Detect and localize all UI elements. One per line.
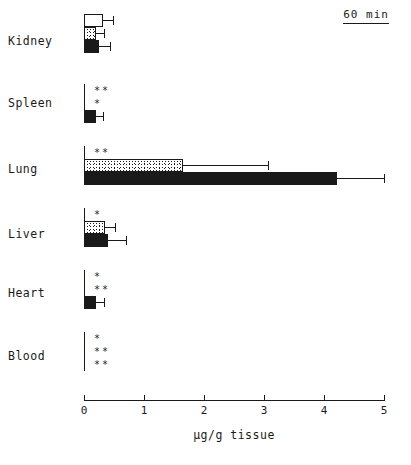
x-tick-label-0: 0 bbox=[74, 404, 94, 417]
bar-row: * bbox=[84, 97, 404, 110]
category-label-spleen: Spleen bbox=[8, 97, 76, 110]
bar-row bbox=[84, 159, 404, 172]
significance-marker: ** bbox=[94, 358, 110, 371]
bar-blood-open bbox=[84, 332, 85, 345]
x-tick-label-1: 1 bbox=[134, 404, 154, 417]
bar-heart-stippled bbox=[84, 283, 85, 296]
x-tick-0 bbox=[84, 395, 85, 401]
x-tick-4 bbox=[324, 395, 325, 401]
bar-heart-open bbox=[84, 270, 85, 283]
bar-kidney-stippled bbox=[84, 27, 96, 40]
error-bar-cap bbox=[103, 112, 104, 121]
bar-spleen-open bbox=[84, 84, 85, 97]
bar-kidney-solid bbox=[84, 40, 99, 53]
bar-liver-open bbox=[84, 208, 85, 221]
bar-chart-figure: 60 min KidneySpleen***Lung**Liver*Heart*… bbox=[0, 0, 411, 465]
bar-row bbox=[84, 234, 404, 247]
significance-marker: ** bbox=[94, 146, 110, 159]
error-bar-cap bbox=[104, 29, 105, 38]
bar-row bbox=[84, 172, 404, 185]
significance-marker: ** bbox=[94, 84, 110, 97]
bar-lung-open bbox=[84, 146, 85, 159]
x-tick-label-2: 2 bbox=[194, 404, 214, 417]
bar-kidney-open bbox=[84, 14, 103, 27]
bar-spleen-stippled bbox=[84, 97, 85, 110]
category-label-heart: Heart bbox=[8, 287, 76, 300]
bar-lung-solid bbox=[84, 172, 337, 185]
x-tick-5 bbox=[384, 395, 385, 401]
error-bar bbox=[96, 116, 103, 117]
error-bar bbox=[337, 178, 384, 179]
bar-heart-solid bbox=[84, 296, 96, 309]
bar-row: * bbox=[84, 270, 404, 283]
category-label-kidney: Kidney bbox=[8, 35, 76, 48]
bar-row bbox=[84, 40, 404, 53]
bar-row bbox=[84, 110, 404, 123]
bar-spleen-solid bbox=[84, 110, 96, 123]
bar-row: ** bbox=[84, 345, 404, 358]
x-axis-line bbox=[84, 400, 384, 401]
x-axis-title: µg/g tissue bbox=[84, 428, 384, 442]
x-tick-1 bbox=[144, 395, 145, 401]
error-bar bbox=[183, 165, 268, 166]
category-label-liver: Liver bbox=[8, 228, 76, 241]
x-tick-2 bbox=[204, 395, 205, 401]
bar-row: ** bbox=[84, 146, 404, 159]
bar-row: * bbox=[84, 208, 404, 221]
bar-row: ** bbox=[84, 358, 404, 371]
bar-liver-solid bbox=[84, 234, 108, 247]
bar-row: ** bbox=[84, 84, 404, 97]
category-label-blood: Blood bbox=[8, 350, 76, 363]
error-bar-cap bbox=[104, 298, 105, 307]
x-tick-label-4: 4 bbox=[314, 404, 334, 417]
error-bar bbox=[96, 33, 104, 34]
x-tick-label-5: 5 bbox=[374, 404, 394, 417]
significance-marker: ** bbox=[94, 283, 110, 296]
bar-row bbox=[84, 221, 404, 234]
error-bar bbox=[99, 46, 110, 47]
error-bar bbox=[103, 20, 113, 21]
error-bar bbox=[108, 240, 126, 241]
error-bar bbox=[96, 302, 104, 303]
error-bar bbox=[105, 227, 115, 228]
x-tick-3 bbox=[264, 395, 265, 401]
significance-marker: * bbox=[94, 208, 102, 221]
error-bar-cap bbox=[384, 174, 385, 183]
bar-row bbox=[84, 14, 404, 27]
bar-liver-stippled bbox=[84, 221, 105, 234]
bar-blood-solid bbox=[84, 358, 85, 371]
bar-row bbox=[84, 27, 404, 40]
significance-marker: ** bbox=[94, 345, 110, 358]
significance-marker: * bbox=[94, 332, 102, 345]
category-label-lung: Lung bbox=[8, 163, 76, 176]
error-bar-cap bbox=[115, 223, 116, 232]
significance-marker: * bbox=[94, 97, 102, 110]
error-bar-cap bbox=[268, 161, 269, 170]
bar-blood-stippled bbox=[84, 345, 85, 358]
error-bar-cap bbox=[110, 42, 111, 51]
x-tick-label-3: 3 bbox=[254, 404, 274, 417]
error-bar-cap bbox=[113, 16, 114, 25]
error-bar-cap bbox=[126, 236, 127, 245]
bar-row bbox=[84, 296, 404, 309]
significance-marker: * bbox=[94, 270, 102, 283]
bar-lung-stippled bbox=[84, 159, 183, 172]
bar-row: * bbox=[84, 332, 404, 345]
bar-row: ** bbox=[84, 283, 404, 296]
